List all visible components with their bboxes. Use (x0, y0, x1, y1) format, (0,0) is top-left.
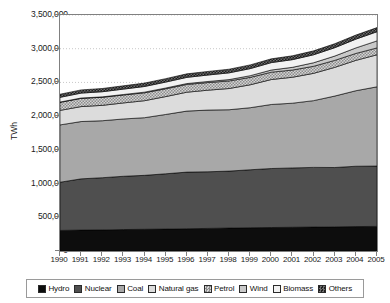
x-axis-tick-label: 1997 (198, 255, 215, 264)
plot-area (59, 14, 378, 252)
chart-figure: TWh 0500,0001,000,0001,500,0002,000,0002… (0, 0, 390, 303)
x-axis-tick-label: 1991 (72, 255, 89, 264)
legend-swatch-wind (239, 285, 247, 293)
chart-legend: HydroNuclearCoalNatural gasPetrolWindBio… (26, 279, 364, 298)
legend-label: Nuclear (85, 284, 112, 293)
x-axis-tick-mark (80, 252, 81, 256)
legend-swatch-coal (117, 285, 125, 293)
x-axis-tick-label: 2004 (346, 255, 363, 264)
legend-swatch-natural-gas (148, 285, 156, 293)
legend-item-petrol[interactable]: Petrol (204, 284, 235, 293)
legend-item-hydro[interactable]: Hydro (38, 284, 69, 293)
legend-item-biomass[interactable]: Biomass (273, 284, 313, 293)
legend-label: Hydro (48, 284, 69, 293)
x-axis-tick-label: 2001 (283, 255, 300, 264)
x-axis-tick-label: 1992 (93, 255, 110, 264)
x-axis-tick-mark (207, 252, 208, 256)
x-axis-tick-mark (270, 252, 271, 256)
legend-label: Natural gas (159, 284, 199, 293)
x-axis-tick-label: 1993 (114, 255, 131, 264)
legend-item-nuclear[interactable]: Nuclear (74, 284, 111, 293)
x-axis-tick-mark (249, 252, 250, 256)
x-axis-tick-mark (101, 252, 102, 256)
legend-label: Others (329, 284, 352, 293)
x-axis-tick-label: 1995 (156, 255, 173, 264)
legend-swatch-others (318, 285, 326, 293)
legend-swatch-petrol (204, 285, 212, 293)
x-axis-tick-mark (291, 252, 292, 256)
x-axis-tick-mark (313, 252, 314, 256)
x-axis-tick-mark (165, 252, 166, 256)
legend-swatch-biomass (273, 285, 281, 293)
x-axis-tick-label: 1994 (135, 255, 152, 264)
stacked-area-svg (60, 15, 377, 251)
plot-wrapper: TWh 0500,0001,000,0001,500,0002,000,0002… (0, 0, 390, 272)
x-axis-tick-label: 2000 (262, 255, 279, 264)
x-axis-tick-label: 2002 (304, 255, 321, 264)
legend-item-wind[interactable]: Wind (239, 284, 267, 293)
x-axis-tick-label: 1998 (220, 255, 237, 264)
x-axis-tick-label: 2003 (325, 255, 342, 264)
legend-swatch-nuclear (74, 285, 82, 293)
x-axis-tick-mark (59, 252, 60, 256)
x-axis-tick-mark (334, 252, 335, 256)
x-axis-tick-mark (355, 252, 356, 256)
x-axis-tick-mark (144, 252, 145, 256)
x-axis-tick-mark (122, 252, 123, 256)
legend-swatch-hydro (38, 285, 46, 293)
x-axis-tick-label: 1999 (241, 255, 258, 264)
x-axis-tick-label: 1990 (51, 255, 68, 264)
x-axis-tick-label: 1996 (177, 255, 194, 264)
x-axis-tick-label: 2005 (368, 255, 385, 264)
x-axis-tick-mark (228, 252, 229, 256)
legend-item-natural-gas[interactable]: Natural gas (148, 284, 198, 293)
legend-label: Wind (250, 284, 268, 293)
x-axis-tick-mark (376, 252, 377, 256)
legend-label: Coal (127, 284, 143, 293)
legend-label: Petrol (214, 284, 234, 293)
legend-label: Biomass (283, 284, 313, 293)
legend-item-others[interactable]: Others (318, 284, 352, 293)
x-axis-tick-mark (186, 252, 187, 256)
legend-item-coal[interactable]: Coal (117, 284, 144, 293)
